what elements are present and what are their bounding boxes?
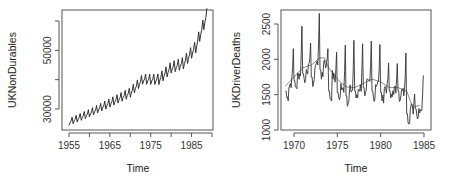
- x-axis: 1970197519801985: [283, 133, 436, 151]
- figure-canvas: 1955196519751985 3000050000 Time UKNonDu…: [0, 0, 451, 184]
- series-ukdriverdeaths: [285, 13, 423, 124]
- x-tick-label: 1955: [58, 140, 81, 151]
- x-axis-title: Time: [127, 162, 150, 174]
- plot-frame: [281, 10, 431, 130]
- x-tick-label: 1985: [413, 140, 436, 151]
- plot-ukdriverdeaths: 1970197519801985 1000150020002500 Time U…: [230, 10, 436, 174]
- y-axis: 3000050000: [42, 21, 59, 123]
- x-tick-label: 1980: [370, 140, 393, 151]
- y-tick-label: 2500: [261, 12, 272, 35]
- x-tick-label: 1970: [283, 140, 306, 151]
- y-tick-label: 50000: [42, 36, 53, 64]
- y-tick-label: 1500: [261, 83, 272, 106]
- plot-uknondurables: 1955196519751985 3000050000 Time UKNonDu…: [6, 8, 213, 174]
- x-tick-label: 1975: [326, 140, 349, 151]
- y-axis-title: UKDriverDeaths: [230, 32, 242, 108]
- series-uknondurables: [69, 8, 207, 125]
- x-tick-label: 1975: [140, 140, 163, 151]
- x-axis-title: Time: [345, 162, 368, 174]
- x-tick-label: 1985: [180, 140, 203, 151]
- y-tick-label: 30000: [42, 95, 53, 123]
- y-tick-label: 2000: [261, 48, 272, 71]
- x-axis: 1955196519751985: [58, 133, 212, 151]
- y-tick-label: 1000: [261, 118, 272, 141]
- y-axis-title: UKNonDurables: [6, 32, 18, 108]
- y-axis: 1000150020002500: [261, 12, 278, 141]
- x-tick-label: 1965: [99, 140, 122, 151]
